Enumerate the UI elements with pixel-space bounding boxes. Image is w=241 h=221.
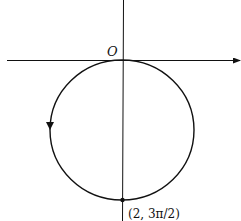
direction-arrow-icon xyxy=(46,122,54,130)
polar-circle-diagram: O (2, 3π/2) xyxy=(0,0,241,221)
vertical-axis xyxy=(123,0,124,221)
point-label: (2, 3π/2) xyxy=(128,207,180,221)
circle-curve xyxy=(50,60,194,200)
point-marker xyxy=(120,198,124,202)
origin-label: O xyxy=(107,44,118,59)
